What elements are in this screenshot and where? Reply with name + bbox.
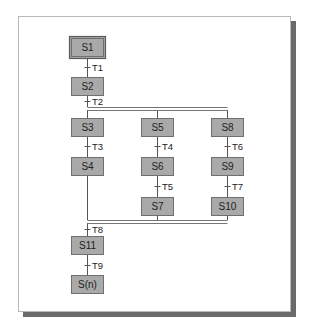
- step-label: S2: [81, 81, 94, 92]
- step-S1-initial: S1: [70, 37, 106, 59]
- step-label: S(n): [78, 279, 97, 290]
- step-S10: S10: [212, 198, 244, 216]
- convergence-bar: [88, 221, 228, 224]
- transition-label: T6: [232, 141, 243, 152]
- transition-label: T5: [162, 181, 173, 192]
- step-label: S9: [221, 161, 234, 172]
- divergence-bar: [88, 108, 228, 111]
- step-S9: S9: [212, 158, 244, 176]
- step-label: S4: [81, 161, 94, 172]
- transition-label: T4: [162, 141, 173, 152]
- transition-label: T8: [92, 224, 103, 235]
- step-S2: S2: [72, 78, 104, 96]
- step-label: S7: [151, 201, 164, 212]
- step-label: S3: [81, 122, 94, 133]
- step-label: S8: [221, 122, 234, 133]
- transition-label: T3: [92, 141, 103, 152]
- transition-label: T7: [232, 181, 243, 192]
- step-label: S11: [79, 240, 96, 251]
- step-S6: S6: [142, 158, 174, 176]
- step-S3: S3: [72, 119, 104, 137]
- step-label: S6: [151, 161, 164, 172]
- transition-label: T2: [92, 96, 103, 107]
- step-S8: S8: [212, 119, 244, 137]
- step-S7: S7: [142, 198, 174, 216]
- step-label: S1: [81, 42, 94, 53]
- sfc-diagram: T1 T2 T3 T4 T5 T6 T7 T8 T9 S1 S2: [0, 0, 311, 334]
- transition-label: T1: [92, 62, 103, 73]
- step-label: S10: [219, 201, 237, 212]
- step-label: S5: [151, 122, 164, 133]
- transition-label: T9: [92, 260, 103, 271]
- step-S5: S5: [142, 119, 174, 137]
- step-S4: S4: [72, 158, 104, 176]
- step-S11: S11: [72, 237, 104, 255]
- step-Sn: S(n): [72, 276, 104, 294]
